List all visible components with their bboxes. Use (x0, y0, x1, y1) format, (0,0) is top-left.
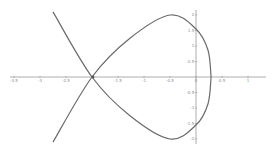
y-tick-label: 1.5 (188, 28, 195, 33)
x-tick-label: -1.5 (114, 78, 122, 83)
y-tick-label: -2 (190, 136, 194, 141)
y-tick-label: -0.5 (186, 90, 194, 95)
x-tick-label: -1 (142, 78, 146, 83)
y-tick-label: -1 (190, 105, 194, 110)
x-tick-label: -3.5 (10, 78, 18, 83)
chart-plot: -3.5-3-2.5-1.5-1-0.500.51 21.510.5-0.5-1… (0, 0, 272, 151)
x-tick-label: -2.5 (62, 78, 70, 83)
x-tick-label: 0.5 (219, 78, 226, 83)
x-tick-label: -3 (38, 78, 42, 83)
x-tick-label: 0 (195, 78, 198, 83)
y-tick-label: -1.5 (186, 121, 194, 126)
x-tick-label: 1 (247, 78, 250, 83)
y-tick-label: 0.5 (188, 59, 195, 64)
self-intersection-point (92, 76, 95, 79)
x-tick-label: -0.5 (166, 78, 174, 83)
y-tick-label: 1 (192, 43, 195, 48)
y-tick-label: 2 (192, 12, 195, 17)
